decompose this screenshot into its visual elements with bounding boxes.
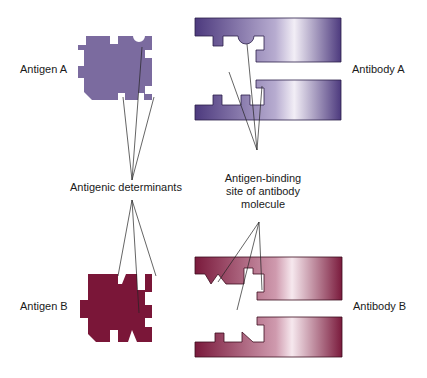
- antibody-a-label: Antibody A: [352, 63, 405, 75]
- antigen-a-label: Antigen A: [20, 63, 67, 75]
- antibody-b-label: Antibody B: [353, 300, 406, 312]
- antibody-a-lower-arm: [195, 80, 341, 120]
- antigen-b-label: Antigen B: [20, 300, 68, 312]
- antigen-b-shape: [80, 274, 152, 342]
- binding-site-label: Antigen-binding site of antibody molecul…: [218, 172, 308, 211]
- antigenic-determinants-label: Antigenic determinants: [70, 181, 182, 193]
- antibody-b-upper-arm: [195, 257, 342, 300]
- antibody-b-lower-arm: [195, 317, 342, 357]
- antigen-antibody-diagram: [0, 0, 427, 378]
- antibody-a-upper-arm: [195, 18, 341, 62]
- binding-site-label-line1: Antigen-binding: [218, 172, 308, 185]
- binding-site-label-line2: site of antibody: [218, 185, 308, 198]
- antigen-a-shape: [78, 36, 152, 100]
- binding-site-label-line3: molecule: [218, 198, 308, 211]
